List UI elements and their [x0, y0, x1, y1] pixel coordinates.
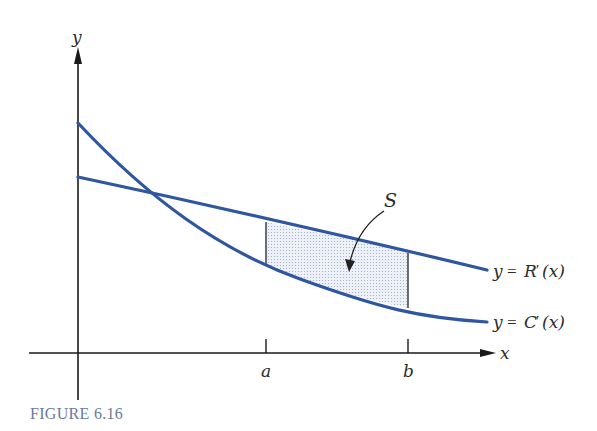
x-axis-arrowhead-icon	[480, 349, 496, 357]
svg-text:′: ′	[536, 262, 539, 278]
figure-6-16: y x a b S y = R ′ (x) y = C ′ (x)	[0, 0, 597, 431]
region-s-label: S	[384, 189, 397, 211]
svg-text:y: y	[492, 261, 503, 281]
svg-text:=: =	[507, 313, 517, 332]
y-axis-label: y	[71, 27, 82, 47]
tick-label-b: b	[403, 361, 414, 381]
svg-text:=: =	[507, 262, 517, 281]
svg-text:(x): (x)	[542, 312, 565, 332]
y-axis-arrowhead-icon	[74, 47, 82, 64]
svg-text:(x): (x)	[542, 261, 565, 281]
label-r-prime: y = R ′ (x)	[492, 261, 565, 281]
svg-text:y: y	[492, 312, 503, 332]
svg-text:R: R	[523, 261, 537, 281]
x-axis-label: x	[500, 343, 510, 363]
tick-label-a: a	[261, 361, 271, 381]
figure-caption: FIGURE 6.16	[30, 405, 123, 423]
svg-text:′: ′	[536, 313, 539, 329]
label-c-prime: y = C ′ (x)	[492, 312, 565, 332]
